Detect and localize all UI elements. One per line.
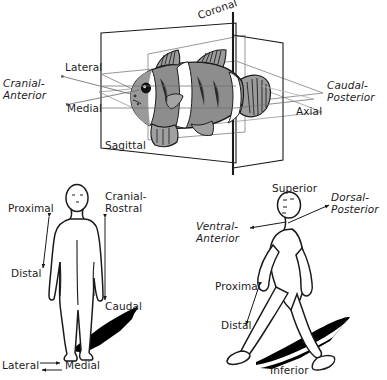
label-axial: Axial (296, 106, 322, 118)
label-distal-right: Distal (221, 320, 252, 332)
label-medial-top: Medial (67, 103, 102, 115)
label-lateral-bottom: Lateral (2, 360, 39, 372)
label-distal-left: Distal (11, 268, 42, 280)
arrow-lateral-medial-left (40, 363, 62, 370)
label-dorsal-posterior: Dorsal- Posterior (331, 192, 379, 215)
clownfish-illustration (131, 50, 270, 147)
figure-artwork (0, 0, 387, 380)
label-lateral-top: Lateral (65, 62, 102, 74)
label-proximal-right: Proximal (215, 281, 261, 293)
label-proximal-left: Proximal (8, 203, 54, 215)
label-superior: Superior (272, 183, 317, 195)
anatomical-planes-figure: Coronal Sagittal Axial Cranial- Anterior… (0, 0, 387, 380)
label-cranial-anterior: Cranial- Anterior (3, 78, 46, 101)
label-sagittal: Sagittal (105, 140, 146, 152)
label-medial-bottom: Medial (65, 360, 100, 372)
label-caudal-posterior: Caudal- Posterior (327, 80, 375, 103)
label-inferior: Inferior (270, 365, 309, 377)
label-caudal: Caudal (105, 301, 142, 313)
arrow-proximal-distal-left (43, 217, 49, 268)
arrow-ventral-anterior (250, 222, 286, 228)
label-ventral-anterior: Ventral- Anterior (196, 221, 239, 244)
label-cranial-rostral: Cranial- Rostral (105, 191, 147, 214)
leader-lateral (65, 77, 131, 94)
